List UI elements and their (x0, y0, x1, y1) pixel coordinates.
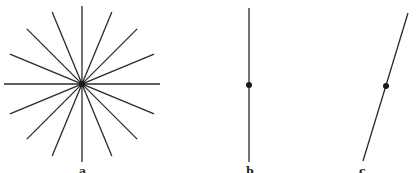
panel-b-label: b (246, 166, 254, 173)
panel-a-center-point (79, 81, 85, 87)
panel-b-point (246, 82, 252, 88)
panel-c-point (383, 83, 389, 89)
panel-a-label: a (79, 166, 86, 173)
panel-c-label: c (359, 166, 366, 173)
diagram-canvas (0, 0, 416, 173)
